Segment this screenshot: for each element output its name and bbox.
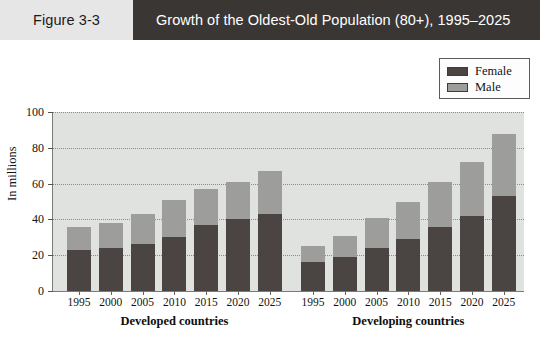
y-axis-tick-label: 20 [32,248,44,263]
figure-title-panel: Growth of the Oldest-Old Population (80+… [133,0,540,40]
x-axis-tick-label: 2015 [429,296,452,308]
bar-developed-2000 [99,223,123,291]
bar-segment-female [131,244,155,291]
bar-developing-2015 [428,182,452,291]
x-axis-group-label: Developing countries [352,314,464,329]
y-axis-tick-label: 0 [38,284,44,299]
bar-segment-male [258,171,282,214]
bar-developing-2005 [365,218,389,291]
bar-segment-female [365,248,389,291]
bar-segment-male [194,189,218,225]
y-axis-tick [48,291,53,292]
y-axis-tick-label: 60 [32,176,44,191]
x-axis-tick [408,291,409,295]
gridline [53,219,524,220]
x-axis-tick [345,291,346,295]
x-axis-tick [270,291,271,295]
y-axis-tick-label: 100 [26,105,44,120]
x-axis-tick-label: 2015 [195,296,218,308]
bar-segment-male [131,214,155,244]
x-axis-tick [313,291,314,295]
bar-segment-male [162,200,186,238]
legend-swatch-male [447,83,468,92]
bar-segment-male [333,236,357,257]
bar-segment-female [333,257,357,291]
x-axis-tick-label: 2010 [163,296,186,308]
legend-item: Male [447,80,529,95]
bar-segment-male [301,246,325,262]
x-axis-tick-label: 1995 [302,296,325,308]
y-axis-tick [48,184,53,185]
y-axis-tick [48,255,53,256]
bar-developed-2025 [258,171,282,291]
bar-segment-female [194,225,218,291]
x-axis-tick-label: 2020 [227,296,250,308]
bar-segment-male [428,182,452,227]
figure-number-panel: Figure 3-3 [0,0,133,40]
bar-segment-female [99,248,123,291]
x-axis-tick-label: 2005 [365,296,388,308]
bar-developing-2010 [396,202,420,292]
x-axis-tick-label: 1995 [68,296,91,308]
x-axis-tick [111,291,112,295]
x-axis-tick-label: 2010 [397,296,420,308]
gridline [53,148,524,149]
x-axis-tick [440,291,441,295]
legend-label: Female [475,65,512,78]
bar-segment-male [492,134,516,197]
bar-developed-2010 [162,200,186,291]
legend-label: Male [475,81,501,94]
bar-segment-female [258,214,282,291]
x-axis-tick [206,291,207,295]
bar-segment-male [99,223,123,248]
bar-segment-male [396,202,420,240]
figure-header: Figure 3-3 Growth of the Oldest-Old Popu… [0,0,540,40]
x-axis-tick [238,291,239,295]
bar-segment-female [396,239,420,291]
bar-segment-female [428,227,452,291]
x-axis-tick-label: 2000 [333,296,356,308]
legend-item: Female [447,64,529,79]
bar-developed-2005 [131,214,155,291]
bar-developed-2015 [194,189,218,291]
legend-swatch-female [447,67,468,76]
y-axis-tick [48,219,53,220]
bar-segment-female [162,237,186,291]
bar-developing-2025 [492,133,516,291]
bar-segment-male [365,218,389,248]
bar-segment-female [460,216,484,291]
x-axis-tick [377,291,378,295]
bar-segment-male [226,182,250,220]
chart-plot-area: 0204060801001995200020052010201520202025… [52,112,524,292]
y-axis-tick-label: 80 [32,140,44,155]
x-axis-tick [143,291,144,295]
bar-developing-1995 [301,246,325,291]
bar-developed-2020 [226,182,250,291]
x-axis-tick [79,291,80,295]
gridline [53,112,524,113]
x-axis-tick [174,291,175,295]
bar-developing-2000 [333,236,357,291]
y-axis-tick [48,148,53,149]
chart-legend: FemaleMale [439,58,530,99]
figure-title: Growth of the Oldest-Old Population (80+… [156,12,510,28]
x-axis-tick-label: 2000 [99,296,122,308]
x-axis-tick-label: 2005 [131,296,154,308]
y-axis-tick-label: 40 [32,212,44,227]
x-axis-tick-label: 2025 [258,296,281,308]
figure-number-label: Figure 3-3 [33,12,100,28]
bar-developed-1995 [67,227,91,291]
bar-segment-female [492,196,516,291]
bar-segment-female [301,262,325,291]
x-axis-tick-label: 2025 [492,296,515,308]
bar-developing-2020 [460,162,484,291]
bar-segment-female [226,219,250,291]
x-axis-tick [472,291,473,295]
bar-segment-male [460,162,484,216]
gridline [53,255,524,256]
x-axis-tick [504,291,505,295]
y-axis-title: In millions [5,146,20,201]
bar-segment-female [67,250,91,291]
x-axis-tick-label: 2020 [461,296,484,308]
x-axis-group-label: Developed countries [120,314,228,329]
